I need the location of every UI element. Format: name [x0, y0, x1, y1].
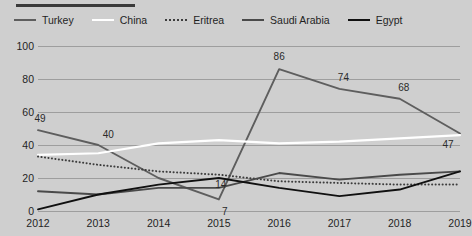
data-point-label: 86 — [274, 52, 285, 62]
y-axis-tick-label: 100 — [0, 41, 34, 52]
x-axis-tick-label: 2013 — [87, 218, 110, 229]
x-axis-tick-label: 2017 — [328, 218, 351, 229]
data-point-label: 47 — [442, 140, 453, 150]
legend-item-china[interactable]: China — [92, 15, 147, 26]
plot-area: 494078674684714 — [38, 46, 460, 211]
data-point-label: 14 — [215, 180, 226, 190]
legend-item-eritrea[interactable]: Eritrea — [165, 15, 224, 26]
series-line-egypt — [38, 171, 460, 209]
line-swatch-icon — [242, 15, 264, 25]
line-swatch-icon — [14, 15, 36, 25]
top-divider-rule — [16, 4, 135, 7]
legend-label: Egypt — [376, 15, 403, 26]
x-axis-tick-label: 2012 — [26, 218, 49, 229]
y-axis-tick-label: 80 — [0, 74, 34, 85]
legend-item-saudi-arabia[interactable]: Saudi Arabia — [242, 15, 330, 26]
x-axis: 20122013201420152016201720182019 — [38, 216, 460, 232]
line-swatch-icon — [348, 15, 370, 25]
x-axis-tick-label: 2019 — [448, 218, 471, 229]
y-axis-tick-label: 20 — [0, 173, 34, 184]
series-line-china — [38, 135, 460, 155]
legend-item-egypt[interactable]: Egypt — [348, 15, 403, 26]
data-point-label: 49 — [34, 114, 45, 124]
legend-label: China — [120, 15, 147, 26]
x-axis-baseline — [38, 211, 460, 212]
y-axis-tick-label: 40 — [0, 140, 34, 151]
legend-label: Eritrea — [193, 15, 224, 26]
series-lines — [38, 46, 460, 211]
y-axis: 020406080100 — [0, 46, 34, 211]
legend-label: Turkey — [42, 15, 74, 26]
x-axis-tick-label: 2014 — [147, 218, 170, 229]
data-point-label: 68 — [398, 83, 409, 93]
legend-label: Saudi Arabia — [270, 15, 330, 26]
dotted-line-swatch-icon — [165, 15, 187, 25]
x-axis-tick-label: 2016 — [267, 218, 290, 229]
data-point-label: 40 — [103, 130, 114, 140]
x-axis-tick-label: 2018 — [388, 218, 411, 229]
line-chart: 020406080100 494078674684714 20122013201… — [0, 40, 469, 236]
line-swatch-icon — [92, 15, 114, 25]
chart-legend: TurkeyChinaEritreaSaudi ArabiaEgypt — [14, 13, 420, 27]
y-axis-tick-label: 60 — [0, 107, 34, 118]
data-point-label: 74 — [338, 73, 349, 83]
legend-item-turkey[interactable]: Turkey — [14, 15, 74, 26]
y-axis-tick-label: 0 — [0, 206, 34, 217]
x-axis-tick-label: 2015 — [207, 218, 230, 229]
